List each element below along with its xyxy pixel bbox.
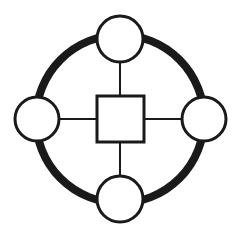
node-north-circle	[97, 16, 143, 62]
diagram-canvas	[0, 0, 242, 246]
network-diagram	[0, 0, 242, 246]
hub-square	[97, 96, 144, 142]
node-west-circle	[15, 97, 59, 141]
node-south-circle	[97, 176, 143, 222]
node-east-circle	[182, 97, 226, 141]
